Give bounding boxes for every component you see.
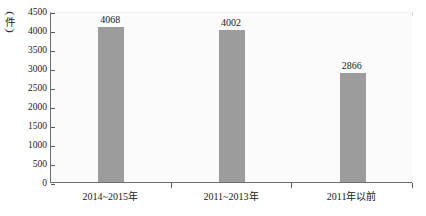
y-axis-tick-label: 1500 bbox=[5, 122, 47, 132]
bar-value-label: 4002 bbox=[201, 18, 261, 28]
y-axis-tick bbox=[51, 146, 55, 147]
bar bbox=[98, 27, 124, 182]
y-axis-tick bbox=[51, 13, 55, 14]
x-axis-tick-label: 2011~2013年 bbox=[171, 191, 291, 203]
x-axis-tick bbox=[412, 183, 413, 188]
y-axis-tick-label: 2000 bbox=[5, 103, 47, 113]
y-axis-tick-label: 4000 bbox=[5, 27, 47, 37]
x-axis-tick-label: 2014~2015年 bbox=[50, 191, 170, 203]
y-axis-tick-label: 4500 bbox=[5, 8, 47, 18]
y-axis-tick-label: 3000 bbox=[5, 65, 47, 75]
y-axis-tick-label: 500 bbox=[5, 160, 47, 170]
y-axis-tick bbox=[51, 165, 55, 166]
y-axis-tick-label: 3500 bbox=[5, 46, 47, 56]
x-axis-tick bbox=[171, 183, 172, 188]
y-axis-tick bbox=[51, 89, 55, 90]
y-axis-tick-label: 1000 bbox=[5, 141, 47, 151]
x-axis-tick-label: 2011年以前 bbox=[292, 191, 412, 203]
bar bbox=[340, 73, 366, 182]
bar-value-label: 2866 bbox=[322, 61, 382, 71]
bar-value-label: 4068 bbox=[80, 15, 140, 25]
y-axis-tick bbox=[51, 108, 55, 109]
y-axis-tick bbox=[51, 184, 55, 185]
y-axis-tick bbox=[51, 127, 55, 128]
x-axis-tick bbox=[291, 183, 292, 188]
plot-area bbox=[50, 12, 412, 183]
y-axis-tick-label: 2500 bbox=[5, 84, 47, 94]
y-axis-tick bbox=[51, 51, 55, 52]
bar bbox=[219, 30, 245, 182]
y-axis-tick-label: 0 bbox=[5, 179, 47, 189]
y-axis-tick bbox=[51, 70, 55, 71]
y-axis-tick bbox=[51, 32, 55, 33]
bar-chart: ( 件 ) 4500400035003000250020001500100050… bbox=[0, 0, 426, 216]
